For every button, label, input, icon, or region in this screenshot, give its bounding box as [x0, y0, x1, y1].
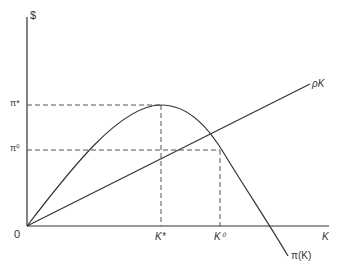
cost-line-label: ρK: [312, 79, 324, 89]
y-axis-label: $: [30, 10, 36, 21]
x-axis-label: K: [322, 232, 329, 242]
origin-label: 0: [14, 229, 20, 240]
pi-zero-label: π⁰: [10, 144, 20, 153]
diagram-canvas: [0, 0, 341, 273]
pi-star-label: π*: [10, 99, 20, 108]
k-zero-label: K⁰: [214, 232, 225, 242]
profit-curve-label: π(K): [291, 251, 311, 261]
k-star-label: K*: [155, 232, 166, 242]
